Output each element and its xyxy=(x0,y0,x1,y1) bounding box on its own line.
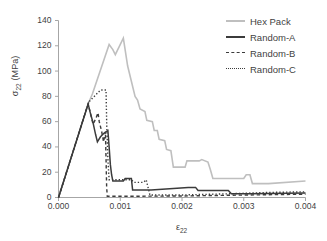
x-tick-label: 0.002 xyxy=(159,202,205,211)
x-axis-label-subscript: 22 xyxy=(180,227,187,234)
y-tick-label: 100 xyxy=(26,67,52,75)
y-tick-label: 80 xyxy=(26,92,52,100)
legend-label: Hex Pack xyxy=(250,16,291,27)
chart-legend: Hex PackRandom-ARandom-BRandom-C xyxy=(226,13,296,77)
legend-label: Random-B xyxy=(250,48,295,59)
legend-item: Random-A xyxy=(226,29,296,45)
x-tick-label: 0.000 xyxy=(36,202,82,211)
y-axis-label-subscript: 22 xyxy=(15,83,22,90)
legend-label: Random-C xyxy=(250,64,296,75)
legend-item: Hex Pack xyxy=(226,13,296,29)
y-axis-label-unit: (MPa) xyxy=(10,56,20,84)
y-tick-label: 0 xyxy=(26,193,52,201)
x-tick-label: 0.004 xyxy=(283,202,327,211)
y-tick-label: 140 xyxy=(26,16,52,24)
legend-item: Random-B xyxy=(226,45,296,61)
chart-figure: σ22 (MPa) ε22 020406080100120140 0.0000.… xyxy=(0,0,327,241)
x-tick-label: 0.001 xyxy=(97,202,143,211)
legend-label: Random-A xyxy=(250,32,295,43)
y-tick-label: 120 xyxy=(26,41,52,49)
y-axis-label: σ22 (MPa) xyxy=(10,36,22,116)
y-tick-label: 60 xyxy=(26,117,52,125)
legend-item: Random-C xyxy=(226,61,296,77)
x-axis-label: ε22 xyxy=(58,222,305,234)
y-tick-label: 20 xyxy=(26,168,52,176)
x-tick-label: 0.003 xyxy=(221,202,267,211)
y-axis-label-symbol: σ xyxy=(10,91,20,97)
y-tick-label: 40 xyxy=(26,142,52,150)
series-line-random-c xyxy=(59,90,306,197)
